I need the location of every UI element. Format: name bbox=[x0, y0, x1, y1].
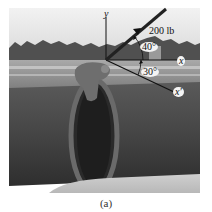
figure: y 200 lb 40° x 30° x′ (a) bbox=[0, 0, 212, 212]
y-axis-label: y bbox=[104, 9, 108, 19]
force-magnitude-label: 200 lb bbox=[149, 26, 174, 36]
figure-caption: (a) bbox=[0, 196, 212, 210]
angle-30-label: 30° bbox=[141, 67, 159, 77]
x-prime-axis-label: x′ bbox=[173, 87, 184, 97]
vector-overlay bbox=[0, 0, 212, 212]
x-prime-axis-line bbox=[106, 60, 174, 92]
angle-40-label: 40° bbox=[140, 42, 158, 52]
